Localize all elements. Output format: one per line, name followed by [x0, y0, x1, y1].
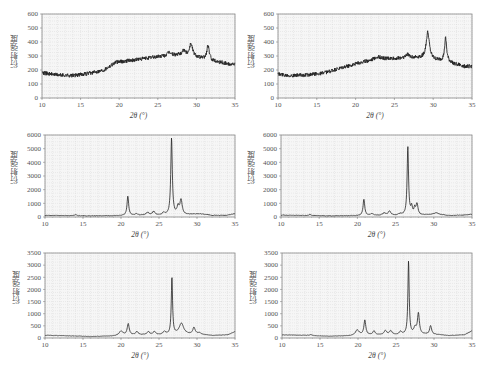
x-tick-label: 35 — [469, 341, 477, 349]
y-tick-label: 1500 — [264, 298, 279, 306]
y-tick-label: 0 — [275, 334, 279, 342]
y-tick-label: 2500 — [264, 274, 279, 282]
x-tick-label: 10 — [279, 341, 287, 349]
y-axis-label: 衍射强度 — [248, 270, 259, 304]
y-tick-label: 1000 — [264, 310, 279, 318]
y-tick-label: 3000 — [264, 261, 279, 269]
y-tick-label: 500 — [268, 322, 279, 330]
x-tick-label: 25 — [393, 341, 401, 349]
y-tick-label: 2000 — [264, 286, 279, 294]
x-axis-label: 2θ (°) — [368, 351, 386, 360]
chart-panel-bottom-right: 衍射强度 10152025303505001000150020002500300… — [0, 0, 483, 366]
x-tick-label: 20 — [355, 341, 363, 349]
x-tick-label: 30 — [431, 341, 439, 349]
y-tick-label: 3500 — [264, 249, 279, 257]
x-tick-label: 15 — [317, 341, 325, 349]
xrd-plot-6: 1015202530350500100015002000250030003500… — [0, 0, 483, 366]
